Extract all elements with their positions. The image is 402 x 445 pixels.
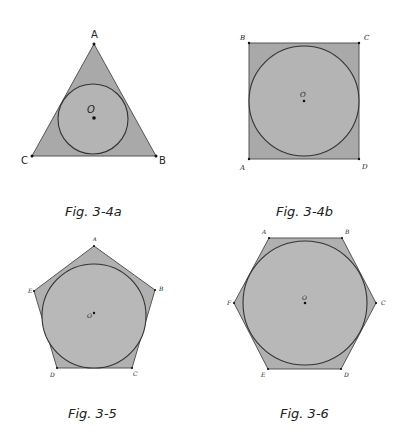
vertex-label-a: A bbox=[239, 164, 245, 172]
vertex-label-c: C bbox=[381, 299, 386, 306]
center-point bbox=[304, 302, 307, 305]
vertex-point bbox=[267, 368, 269, 370]
vertex-label-a: A bbox=[261, 228, 267, 235]
vertex-label-d: D bbox=[343, 371, 349, 378]
vertex-label-e: E bbox=[27, 287, 33, 294]
center-point bbox=[93, 312, 95, 314]
fig-3-5: A B C D E O Fig. 3-5 bbox=[27, 236, 164, 421]
fig-3-4a: A B C O Fig. 3-4a bbox=[21, 29, 166, 219]
center-label: O bbox=[302, 294, 307, 301]
vertex-point bbox=[375, 302, 377, 304]
figure-caption: Fig. 3-4a bbox=[65, 204, 122, 219]
figure-caption: Fig. 3-5 bbox=[68, 406, 117, 421]
vertex-label-f: F bbox=[226, 299, 232, 306]
center-point bbox=[303, 100, 306, 103]
vertex-label-b: B bbox=[158, 285, 164, 292]
vertex-point bbox=[56, 367, 58, 369]
vertex-point bbox=[340, 368, 342, 370]
vertex-label-a: A bbox=[91, 29, 98, 40]
center-label: O bbox=[300, 91, 306, 99]
inscribed-circle bbox=[42, 264, 146, 368]
center-point bbox=[92, 116, 96, 120]
vertex-label-b: B bbox=[344, 228, 350, 235]
vertex-point bbox=[358, 158, 360, 160]
vertex-label-c: C bbox=[21, 155, 28, 166]
figure-caption: Fig. 3-4b bbox=[276, 204, 333, 219]
vertex-label-a: A bbox=[92, 236, 97, 242]
vertex-point bbox=[248, 42, 250, 44]
figure-caption: Fig. 3-6 bbox=[280, 406, 329, 421]
vertex-point bbox=[268, 237, 270, 239]
figure-sheet: A B C O Fig. 3-4a A B C D O Fig. 3-4b A … bbox=[0, 0, 402, 445]
vertex-label-d: D bbox=[49, 371, 55, 378]
vertex-point bbox=[131, 367, 133, 369]
vertex-point bbox=[93, 43, 96, 46]
vertex-point bbox=[154, 289, 156, 291]
fig-3-6: A B C D E F O Fig. 3-6 bbox=[226, 228, 386, 421]
vertex-point bbox=[155, 155, 158, 158]
vertex-label-b: B bbox=[239, 34, 245, 42]
vertex-label-d: D bbox=[361, 163, 368, 171]
vertex-point bbox=[248, 158, 250, 160]
vertex-point bbox=[233, 302, 235, 304]
vertex-point bbox=[93, 245, 95, 247]
diagram-canvas: A B C O Fig. 3-4a A B C D O Fig. 3-4b A … bbox=[0, 0, 402, 445]
fig-3-4b: A B C D O Fig. 3-4b bbox=[239, 34, 370, 219]
vertex-label-c: C bbox=[133, 370, 138, 377]
vertex-label-b: B bbox=[159, 155, 166, 166]
vertex-point bbox=[358, 42, 360, 44]
center-label: O bbox=[87, 312, 92, 319]
vertex-label-c: C bbox=[364, 34, 370, 42]
vertex-point bbox=[33, 290, 35, 292]
center-label: O bbox=[87, 104, 95, 115]
vertex-point bbox=[31, 155, 34, 158]
vertex-label-e: E bbox=[260, 371, 266, 378]
vertex-point bbox=[341, 237, 343, 239]
